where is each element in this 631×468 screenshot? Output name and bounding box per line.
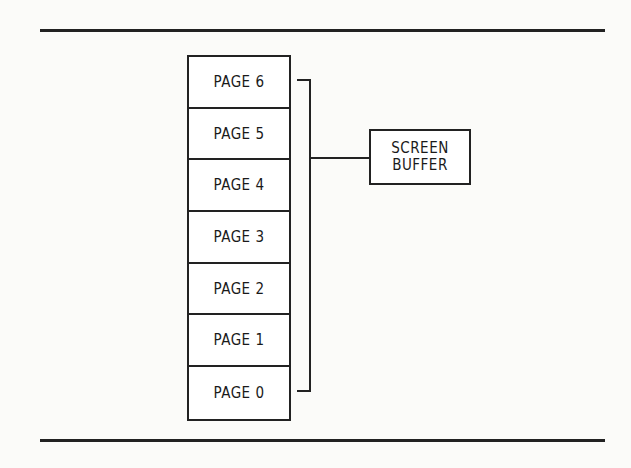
page-6: PAGE 6 bbox=[189, 57, 289, 109]
page-0: PAGE 0 bbox=[189, 367, 289, 419]
page-stack: PAGE 6 PAGE 5 PAGE 4 PAGE 3 PAGE 2 PAGE … bbox=[187, 55, 291, 421]
connector-line bbox=[311, 157, 369, 159]
page-2: PAGE 2 bbox=[189, 264, 289, 316]
page-1: PAGE 1 bbox=[189, 315, 289, 367]
page-5: PAGE 5 bbox=[189, 109, 289, 161]
page-4: PAGE 4 bbox=[189, 160, 289, 212]
screen-buffer-line1: SCREEN bbox=[391, 140, 449, 157]
page-3: PAGE 3 bbox=[189, 212, 289, 264]
screen-buffer-box: SCREEN BUFFER bbox=[369, 129, 471, 185]
top-rule bbox=[40, 29, 605, 32]
bottom-rule bbox=[40, 439, 605, 442]
screen-buffer-line2: BUFFER bbox=[392, 157, 448, 174]
page-bracket bbox=[297, 79, 311, 392]
